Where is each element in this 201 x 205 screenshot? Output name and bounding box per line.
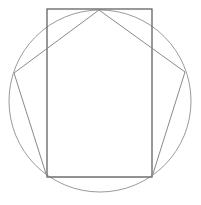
background — [0, 0, 201, 205]
geometry-diagram — [0, 0, 201, 205]
